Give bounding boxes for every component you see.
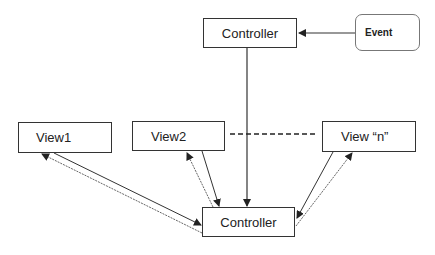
view1-to-controller-arrow [54,153,201,225]
controller-to-view1-arrow [42,154,202,233]
view2-to-controller-arrow [202,151,219,206]
bottom-controller-box: Controller [202,207,295,237]
viewn-label: View “n” [341,129,388,144]
event-box: Event [355,14,420,51]
view1-label: View1 [36,130,71,145]
bottom-controller-label: Controller [220,215,276,230]
top-controller-label: Controller [222,26,278,41]
event-label: Event [365,27,392,38]
view2-label: View2 [151,129,186,144]
controller-to-viewn-arrow [296,153,352,226]
view1-box: View1 [18,122,112,153]
controller-to-view2-arrow [187,153,213,207]
top-controller-box: Controller [203,18,297,48]
view2-box: View2 [132,121,225,151]
viewn-box: View “n” [322,121,416,152]
